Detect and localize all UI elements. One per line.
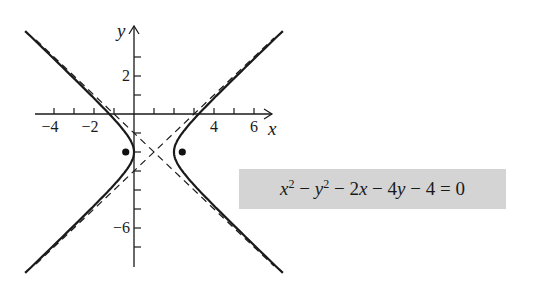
y-axis-label: y	[115, 20, 126, 41]
eq-op: − 4 = 0	[405, 179, 464, 200]
eq-y: y	[315, 179, 323, 200]
eq-x: x	[280, 179, 288, 200]
x-axis-label: x	[267, 118, 277, 139]
asymptote-lines	[36, 38, 274, 266]
hyperbola-plot: −4−2462−6xy	[0, 0, 533, 284]
eq-op: − 4	[367, 179, 397, 200]
x-tick-label: 6	[250, 118, 258, 135]
focus-point	[122, 148, 129, 155]
eq-op: −	[295, 179, 315, 200]
eq-op: − 2	[329, 179, 359, 200]
x-tick-label: 4	[210, 118, 218, 135]
focus-point	[179, 148, 186, 155]
x-tick-label: −2	[81, 118, 98, 135]
hyperbola-right-branch	[174, 31, 283, 273]
y-tick-label: 2	[122, 67, 130, 84]
equation-text: x2 − y2 − 2x − 4y − 4 = 0	[280, 177, 465, 200]
x-tick-label: −4	[41, 118, 58, 135]
hyperbola-left-branch	[25, 31, 134, 273]
equation-box: x2 − y2 − 2x − 4y − 4 = 0	[239, 169, 506, 209]
y-tick-label: −6	[113, 219, 130, 236]
